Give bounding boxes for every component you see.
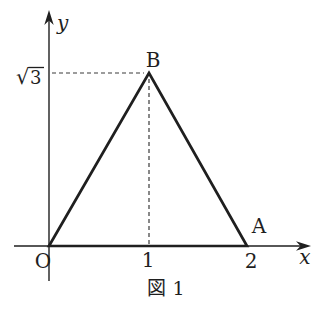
x-tick-2: 2 <box>245 249 258 273</box>
triangle-OAB <box>49 73 247 246</box>
sqrt3-radicand: 3 <box>30 67 41 88</box>
triangle-diagram: y x √ 3 O 1 2 B A 図 1 <box>0 0 325 321</box>
point-A-label: A <box>251 214 267 238</box>
y-tick-sqrt3: √ 3 <box>16 65 44 89</box>
y-axis-label: y <box>56 11 69 35</box>
x-tick-1: 1 <box>142 248 155 272</box>
figure-1: y x √ 3 O 1 2 B A 図 1 <box>0 0 325 321</box>
sqrt3-radical-sign: √ <box>16 65 30 89</box>
figure-caption: 図 1 <box>147 277 184 299</box>
x-axis-label: x <box>299 245 310 269</box>
point-B-label: B <box>146 48 161 72</box>
origin-label: O <box>35 249 51 273</box>
